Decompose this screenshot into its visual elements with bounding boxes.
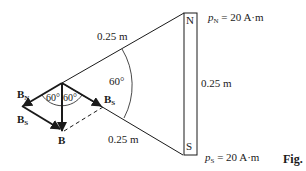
pole-strength-north: pN = 20 A·m [208, 12, 264, 25]
diagram-canvas [0, 0, 306, 171]
vector-subscript: N [24, 94, 29, 102]
lower-distance-label: 0.25 m [108, 134, 139, 145]
upper-distance-label: 0.25 m [97, 31, 128, 42]
pole-value: = 20 A·m [221, 11, 263, 23]
right-vector-angle-label: 60° [63, 93, 77, 103]
vector-b-s-left-label: BS [17, 114, 28, 127]
pole-value: = 20 A·m [217, 151, 259, 163]
vector-b-s-right-label: BS [104, 94, 115, 107]
left-vector-angle-label: 60° [46, 93, 60, 103]
north-pole-label: N [186, 15, 194, 26]
pole-subscript: S [211, 157, 215, 165]
vector-subscript: S [24, 119, 28, 127]
bar-magnet [184, 13, 197, 155]
pole-strength-south: pS = 20 A·m [205, 152, 259, 165]
south-pole-label: S [186, 141, 192, 152]
parallelogram-dashed-line [64, 107, 103, 131]
pole-subscript: N [214, 17, 219, 25]
magnet-length-label: 0.25 m [201, 78, 232, 89]
vector-subscript: S [111, 99, 115, 107]
vector-b-n-label: BN [17, 89, 29, 102]
apex-angle-label: 60° [109, 76, 124, 87]
vector-b-resultant-label: B [58, 135, 65, 146]
upper-distance-line [62, 13, 184, 83]
figure-label: Fig. [283, 153, 303, 165]
